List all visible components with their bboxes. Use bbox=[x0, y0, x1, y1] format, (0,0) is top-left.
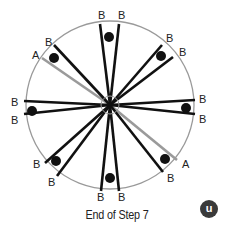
dot-marker bbox=[27, 106, 37, 116]
fold-line-b bbox=[110, 100, 195, 105]
line-label-b: B bbox=[179, 46, 186, 58]
line-label-b: B bbox=[166, 32, 173, 44]
line-label-b: B bbox=[48, 176, 55, 188]
dot-marker bbox=[160, 154, 170, 164]
line-label-a: A bbox=[182, 158, 190, 170]
line-label-b: B bbox=[11, 114, 18, 126]
line-label-b: B bbox=[98, 9, 105, 21]
line-label-b: B bbox=[167, 172, 174, 184]
fold-line-b bbox=[45, 105, 110, 163]
line-label-b: B bbox=[118, 9, 125, 21]
dot-marker bbox=[49, 53, 59, 63]
line-label-a: A bbox=[32, 49, 40, 61]
dot-marker bbox=[104, 32, 114, 42]
fold-line-b bbox=[110, 57, 173, 105]
fold-line-b bbox=[110, 105, 163, 172]
fold-line-b bbox=[110, 45, 162, 105]
fold-line-b bbox=[24, 105, 110, 114]
dot-marker bbox=[51, 156, 61, 166]
dot-marker bbox=[181, 103, 191, 113]
fold-line-b bbox=[54, 45, 110, 105]
fold-line-b bbox=[57, 105, 110, 176]
line-label-b: B bbox=[199, 113, 206, 125]
line-label-b: B bbox=[118, 191, 125, 203]
dot-marker bbox=[105, 173, 115, 183]
fold-line-a bbox=[42, 58, 110, 105]
line-label-b: B bbox=[33, 158, 40, 170]
fold-lines bbox=[24, 24, 195, 191]
brand-logo-icon: u bbox=[200, 200, 218, 218]
line-label-b: B bbox=[97, 191, 104, 203]
fold-diagram: BBBBBBABBBBBBBAB bbox=[0, 0, 234, 233]
line-label-b: B bbox=[45, 36, 52, 48]
step-caption: End of Step 7 bbox=[12, 208, 223, 222]
dot-marker bbox=[156, 51, 166, 61]
fold-line-a bbox=[110, 105, 177, 160]
line-label-b: B bbox=[11, 96, 18, 108]
line-label-b: B bbox=[199, 93, 206, 105]
fold-line-b bbox=[24, 101, 110, 105]
